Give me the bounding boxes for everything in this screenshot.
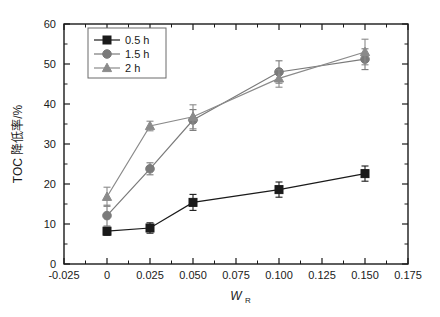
x-tick-label: 0.100 — [265, 269, 293, 281]
series-line — [107, 174, 365, 232]
marker-square — [275, 186, 283, 194]
y-tick-label: 20 — [44, 178, 56, 190]
y-tick-label: 50 — [44, 58, 56, 70]
x-axis-title-subscript: R — [245, 296, 251, 305]
marker-circle — [103, 50, 112, 59]
marker-square — [361, 170, 369, 178]
legend: 0.5 h1.5 h2 h — [88, 28, 166, 78]
x-tick-label: 0.150 — [351, 269, 379, 281]
chart-canvas: -0.02500.0250.0500.0750.1000.1250.1500.1… — [0, 0, 440, 317]
x-tick-label: -0.025 — [48, 269, 79, 281]
legend-label: 1.5 h — [125, 48, 149, 60]
x-axis-title: W — [230, 289, 243, 303]
y-tick-label: 60 — [44, 18, 56, 30]
marker-triangle — [188, 112, 197, 120]
x-tick-label: 0.050 — [179, 269, 207, 281]
legend-label: 2 h — [125, 62, 140, 74]
x-tick-label: 0.125 — [308, 269, 336, 281]
marker-square — [146, 224, 154, 232]
marker-square — [103, 36, 111, 44]
marker-square — [189, 198, 197, 206]
x-tick-label: 0.025 — [136, 269, 164, 281]
x-tick-label: 0 — [104, 269, 110, 281]
chart-figure: -0.02500.0250.0500.0750.1000.1250.1500.1… — [0, 0, 440, 317]
y-tick-label: 10 — [44, 218, 56, 230]
legend-label: 0.5 h — [125, 34, 149, 46]
y-tick-label: 0 — [50, 258, 56, 270]
marker-circle — [146, 165, 155, 174]
marker-square — [103, 227, 111, 235]
marker-circle — [103, 211, 112, 220]
y-tick-label: 40 — [44, 98, 56, 110]
y-tick-label: 30 — [44, 138, 56, 150]
series-line — [107, 59, 365, 215]
x-tick-label: 0.075 — [222, 269, 250, 281]
y-axis-title: TOC 降低率/% — [10, 104, 25, 183]
x-tick-label: 0.175 — [394, 269, 422, 281]
marker-triangle — [102, 192, 111, 200]
